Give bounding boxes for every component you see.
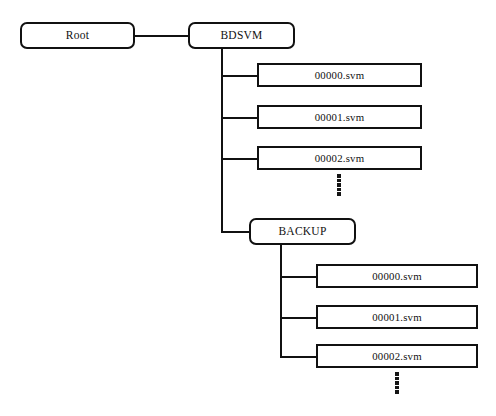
ellipsis-dot [337,174,341,178]
file-node-bdsvm-2[interactable]: 00002.svm [257,146,422,170]
node-backup-label: BACKUP [278,226,326,238]
file-label: 00002.svm [372,351,422,362]
file-label: 00002.svm [315,153,365,164]
edge-bdsvm-to-file-1 [221,117,259,119]
ellipsis-dot [395,390,399,394]
ellipsis-dot [395,386,399,390]
edge-backup-to-file-1 [280,317,318,319]
ellipsis-dot [337,183,341,187]
edge-root-to-bdsvm [135,35,188,37]
file-node-backup-2[interactable]: 00002.svm [316,344,478,368]
file-node-bdsvm-1[interactable]: 00001.svm [257,105,422,129]
node-backup[interactable]: BACKUP [249,218,356,245]
node-root[interactable]: Root [20,22,135,49]
ellipsis-dot [395,381,399,385]
edge-bdsvm-to-file-0 [221,75,259,77]
edge-backup-to-file-0 [280,276,318,278]
file-label: 00001.svm [315,112,365,123]
edge-backup-trunk [280,245,282,358]
cropped-caption-fragment [0,0,496,12]
directory-tree-diagram: Root BDSVM 00000.svm 00001.svm 00002.svm… [0,0,496,416]
node-bdsvm-label: BDSVM [220,30,262,42]
edge-bdsvm-to-backup [221,231,251,233]
file-label: 00001.svm [372,312,422,323]
file-label: 00000.svm [315,70,365,81]
file-node-bdsvm-0[interactable]: 00000.svm [257,63,422,87]
ellipsis-dot [337,192,341,196]
ellipsis-dot [395,372,399,376]
file-node-backup-1[interactable]: 00001.svm [316,305,478,329]
node-root-label: Root [66,30,89,42]
ellipsis-backup-files [395,372,399,394]
node-bdsvm[interactable]: BDSVM [188,22,295,49]
ellipsis-dot [337,188,341,192]
ellipsis-dot [337,179,341,183]
edge-bdsvm-to-file-2 [221,158,259,160]
edge-backup-to-file-2 [280,356,318,358]
file-label: 00000.svm [372,271,422,282]
ellipsis-dot [395,377,399,381]
ellipsis-bdsvm-files [337,174,341,196]
file-node-backup-0[interactable]: 00000.svm [316,264,478,288]
